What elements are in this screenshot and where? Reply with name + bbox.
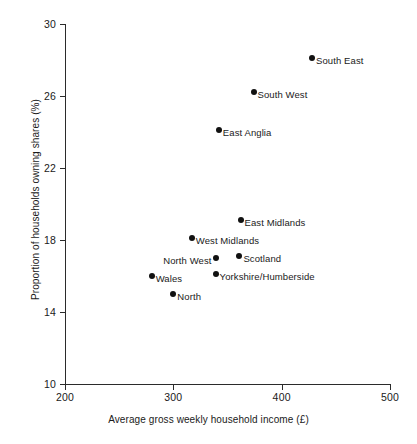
x-tick-label: 200 xyxy=(45,392,85,403)
y-tick-mark xyxy=(60,312,65,313)
data-point-label: Yorkshire/Humberside xyxy=(220,272,315,282)
data-point xyxy=(189,235,195,241)
data-point-label: North West xyxy=(163,256,211,266)
data-point-label: South West xyxy=(258,90,308,100)
y-tick-mark xyxy=(60,96,65,97)
data-point xyxy=(251,89,257,95)
data-point xyxy=(213,271,219,277)
data-point xyxy=(236,253,242,259)
y-tick-mark xyxy=(60,240,65,241)
y-tick-label: 10 xyxy=(20,379,56,390)
data-point xyxy=(216,127,222,133)
data-point-label: South East xyxy=(316,56,363,66)
x-tick-mark xyxy=(282,385,283,390)
y-tick-mark xyxy=(60,168,65,169)
y-axis-line xyxy=(65,24,66,385)
x-axis-line xyxy=(65,384,391,385)
scatter-chart: 302622181410 200300400500 South EastSout… xyxy=(0,0,417,444)
data-point-label: Wales xyxy=(156,274,183,284)
x-tick-mark xyxy=(390,385,391,390)
x-tick-label: 400 xyxy=(262,392,302,403)
y-tick-mark xyxy=(60,24,65,25)
y-axis-title: Proportion of households owning shares (… xyxy=(30,85,41,315)
x-tick-mark xyxy=(173,385,174,390)
x-tick-label: 300 xyxy=(153,392,193,403)
x-axis-title: Average gross weekly household income (£… xyxy=(0,414,417,425)
data-point xyxy=(213,255,219,261)
data-point-label: East Midlands xyxy=(245,218,306,228)
data-point xyxy=(309,55,315,61)
data-point-label: West Midlands xyxy=(196,236,259,246)
data-point-label: North xyxy=(177,292,201,302)
data-point-label: Scotland xyxy=(243,254,281,264)
data-point-label: East Anglia xyxy=(223,128,272,138)
x-tick-mark xyxy=(65,385,66,390)
x-tick-label: 500 xyxy=(370,392,410,403)
data-point xyxy=(149,273,155,279)
data-point xyxy=(170,291,176,297)
data-point xyxy=(238,217,244,223)
y-tick-label: 30 xyxy=(20,19,56,30)
